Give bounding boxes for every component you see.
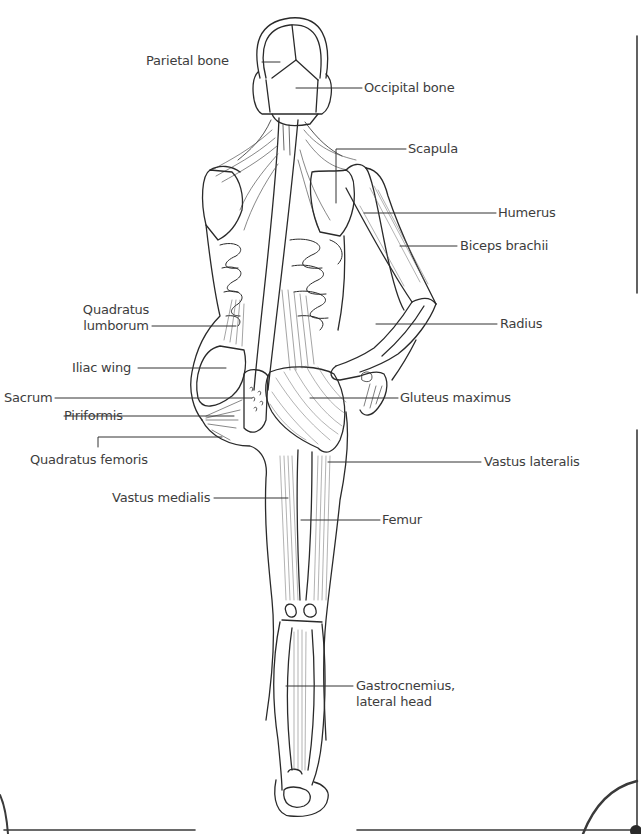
- label-radius: Radius: [500, 316, 542, 332]
- label-vastus-medialis: Vastus medialis: [112, 490, 210, 506]
- knee: [282, 604, 322, 622]
- anatomy-diagram: Parietal bone Occipital bone Scapula Hum…: [0, 0, 641, 834]
- label-humerus: Humerus: [498, 205, 556, 221]
- page-frame: [0, 36, 637, 834]
- label-biceps-brachii: Biceps brachii: [460, 238, 548, 254]
- label-gastrocnemius-line2: lateral head: [356, 694, 432, 710]
- label-scapula: Scapula: [408, 141, 458, 157]
- gluteus-fibers: [270, 366, 346, 444]
- lower-leg: [274, 622, 325, 790]
- label-quadratus-lumborum-line2: lumborum: [76, 318, 156, 334]
- label-piriformis: Piriformis: [64, 408, 123, 424]
- right-ribs: [290, 239, 342, 330]
- label-quadratus-lumborum-line1: Quadratus: [76, 302, 156, 318]
- label-parietal-bone: Parietal bone: [146, 53, 229, 69]
- label-occipital-bone: Occipital bone: [364, 80, 454, 96]
- left-scapula: [203, 166, 243, 240]
- iliac-wing: [197, 346, 246, 406]
- spine: [238, 118, 342, 390]
- quadratus-lumborum: [224, 290, 314, 370]
- label-vastus-lateralis: Vastus lateralis: [484, 454, 580, 470]
- skull: [253, 18, 331, 126]
- forearm: [336, 302, 436, 380]
- sacrum: [244, 370, 268, 432]
- torso-outline: [191, 168, 404, 420]
- right-arm: [346, 168, 436, 304]
- hand: [331, 366, 387, 415]
- biceps-fibers: [360, 186, 428, 286]
- label-iliac-wing: Iliac wing: [72, 360, 131, 376]
- foot: [275, 769, 329, 816]
- label-gluteus-maximus: Gluteus maximus: [400, 390, 511, 406]
- gastrocnemius-fibers: [294, 630, 306, 770]
- label-quadratus-femoris: Quadratus femoris: [30, 452, 148, 468]
- corner-dot: [630, 825, 641, 834]
- label-gastrocnemius-line1: Gastrocnemius,: [356, 678, 455, 694]
- label-femur: Femur: [382, 512, 422, 528]
- thigh-fibers: [280, 456, 330, 600]
- label-sacrum: Sacrum: [4, 390, 52, 406]
